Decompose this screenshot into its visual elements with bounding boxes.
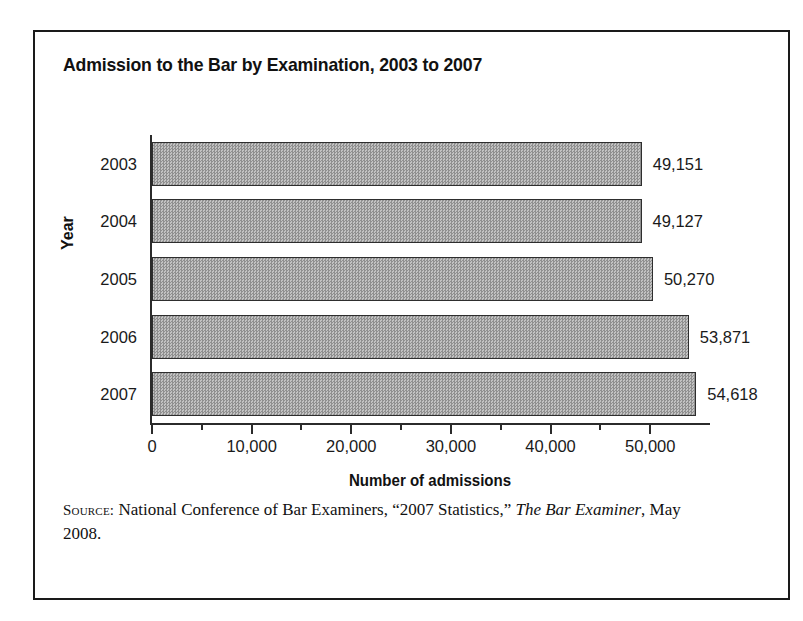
figure-frame: Admission to the Bar by Examination, 200… <box>33 30 790 600</box>
category-label: 2005 <box>100 270 137 289</box>
x-tick-label: 40,000 <box>525 437 575 456</box>
x-tick-major <box>450 425 452 434</box>
plot-area: 200349,151200449,127200550,270200653,871… <box>150 135 710 425</box>
x-tick-label: 10,000 <box>226 437 276 456</box>
x-tick-minor <box>500 425 502 430</box>
bar <box>152 315 689 359</box>
x-tick-major <box>151 425 153 434</box>
bar-row: 200550,270 <box>152 257 710 301</box>
x-tick-major <box>649 425 651 434</box>
bar <box>152 372 696 416</box>
bar-row: 200754,618 <box>152 372 710 416</box>
category-label: 2004 <box>100 212 137 231</box>
category-label: 2003 <box>100 154 137 173</box>
bar-value-label: 49,127 <box>642 212 703 231</box>
source-note: Source: National Conference of Bar Exami… <box>63 498 723 546</box>
x-tick-minor <box>201 425 203 430</box>
bar-value-label: 53,871 <box>689 327 750 346</box>
bar <box>152 257 653 301</box>
y-axis-title: Year <box>59 216 77 250</box>
category-label: 2007 <box>100 385 137 404</box>
x-tick-major <box>350 425 352 434</box>
x-tick-minor <box>400 425 402 430</box>
bar-value-label: 49,151 <box>642 154 703 173</box>
source-label: Source: <box>63 502 114 518</box>
bar-value-label: 50,270 <box>653 270 714 289</box>
x-tick-minor <box>300 425 302 430</box>
source-publication: The Bar Examiner <box>515 500 641 519</box>
bar-row: 200449,127 <box>152 199 710 243</box>
bar <box>152 142 642 186</box>
x-tick-label: 0 <box>147 437 156 456</box>
bar-row: 200653,871 <box>152 315 710 359</box>
x-tick-major <box>251 425 253 434</box>
x-axis-line <box>150 423 710 425</box>
x-tick-label: 50,000 <box>625 437 675 456</box>
x-tick-label: 20,000 <box>326 437 376 456</box>
bar <box>152 199 642 243</box>
x-tick-label: 30,000 <box>426 437 476 456</box>
x-axis-title: Number of admissions <box>167 472 693 490</box>
x-tick-major <box>550 425 552 434</box>
bar-row: 200349,151 <box>152 142 710 186</box>
category-label: 2006 <box>100 327 137 346</box>
x-tick-minor <box>599 425 601 430</box>
bar-value-label: 54,618 <box>696 385 757 404</box>
source-text-before: National Conference of Bar Examiners, “2… <box>114 500 515 519</box>
chart-title: Admission to the Bar by Examination, 200… <box>63 54 482 76</box>
bars-layer: 200349,151200449,127200550,270200653,871… <box>152 135 710 423</box>
